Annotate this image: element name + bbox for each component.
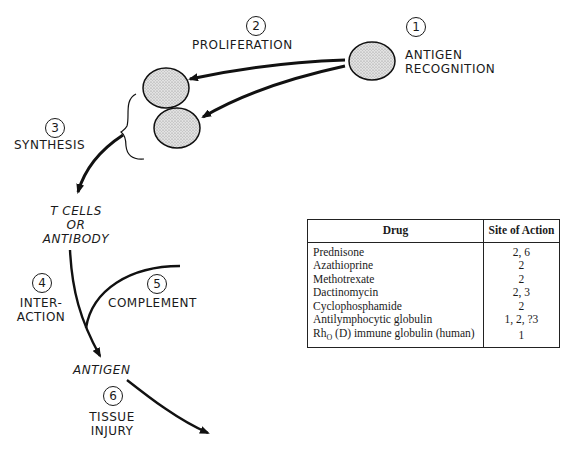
- site-cell: 2, 3: [483, 286, 559, 300]
- step-4-label-line2: ACTION: [12, 310, 70, 324]
- drug-cell: Dactinomycin: [308, 286, 484, 300]
- step-4-label-line1: INTER-: [12, 296, 70, 310]
- drug-site-of-action-table: Drug Site of Action Prednisone 2, 6 Azat…: [307, 219, 560, 348]
- column-header-drug: Drug: [308, 220, 484, 243]
- antigen-recognition-cell: [349, 42, 395, 80]
- drug-cell: Prednisone: [308, 242, 484, 259]
- effector-line-t-cells: T CELLS: [36, 204, 116, 218]
- antigen-node-label: ANTIGEN: [73, 363, 130, 377]
- effector-node-label: T CELLS OR ANTIBODY: [36, 204, 116, 246]
- table-row: Azathioprine 2: [308, 259, 560, 273]
- drug-cell: RhO (D) immune globulin (human): [308, 327, 484, 348]
- effector-line-or: OR: [36, 218, 116, 232]
- drug-cell: Antilymphocytic globulin: [308, 313, 484, 327]
- step-4-marker: 4: [32, 273, 52, 293]
- table-row: Methotrexate 2: [308, 273, 560, 287]
- proliferated-cell-lower: [154, 108, 200, 148]
- table-row: Cyclophosphamide 2: [308, 300, 560, 314]
- step-1-marker: 1: [406, 17, 426, 37]
- step-5-marker: 5: [147, 274, 167, 294]
- drug-name-suffix: (D) immune globulin (human): [332, 327, 474, 339]
- table-row: Antilymphocytic globulin 1, 2, ?3: [308, 313, 560, 327]
- site-cell: 2: [483, 273, 559, 287]
- table-row: Prednisone 2, 6: [308, 242, 560, 259]
- step-3-marker: 3: [45, 118, 65, 138]
- step-3-label: SYNTHESIS: [14, 138, 85, 152]
- step-5-label: COMPLEMENT: [108, 296, 197, 310]
- step-4-label: INTER- ACTION: [12, 296, 70, 324]
- drug-cell: Cyclophosphamide: [308, 300, 484, 314]
- column-header-site: Site of Action: [483, 220, 559, 243]
- drug-cell: Azathioprine: [308, 259, 484, 273]
- step-1-label-line1: ANTIGEN: [405, 48, 495, 62]
- effector-line-antibody: ANTIBODY: [36, 232, 116, 246]
- table-row: Dactinomycin 2, 3: [308, 286, 560, 300]
- site-cell: 2: [483, 259, 559, 273]
- drug-cell: Methotrexate: [308, 273, 484, 287]
- site-cell: 2: [483, 300, 559, 314]
- cell-group-brace: [121, 94, 144, 159]
- step-6-label-line1: TISSUE: [82, 410, 142, 424]
- table-header-row: Drug Site of Action: [308, 220, 560, 243]
- step-6-label: TISSUE INJURY: [82, 410, 142, 438]
- drug-name-prefix: Rh: [313, 327, 326, 339]
- step-2-label: PROLIFERATION: [192, 38, 293, 52]
- site-cell: 1: [483, 327, 559, 348]
- site-cell: 2, 6: [483, 242, 559, 259]
- proliferation-arrow-upper: [190, 60, 345, 79]
- step-6-marker: 6: [103, 386, 123, 406]
- site-cell: 1, 2, ?3: [483, 313, 559, 327]
- step-2-marker: 2: [246, 16, 266, 36]
- proliferated-cell-upper: [143, 68, 189, 108]
- table-row: RhO (D) immune globulin (human) 1: [308, 327, 560, 348]
- step-6-label-line2: INJURY: [82, 424, 142, 438]
- step-1-label-line2: RECOGNITION: [405, 62, 495, 76]
- step-1-label: ANTIGEN RECOGNITION: [405, 48, 495, 76]
